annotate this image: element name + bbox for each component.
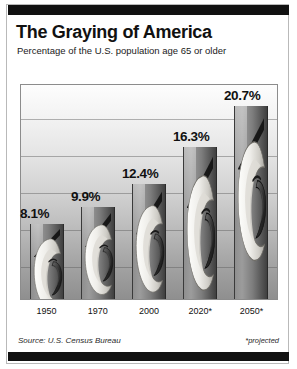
x-label-1950: 1950: [21, 306, 72, 316]
ear-hearing-aid-icon: [82, 222, 114, 296]
x-label-2050: 2050*: [226, 306, 277, 316]
bar-2000: [132, 184, 166, 299]
infographic-poster: The Graying of America Percentage of the…: [0, 0, 297, 369]
bar-2050: [234, 106, 268, 299]
top-rule: [8, 5, 289, 15]
source-note: Source: U.S. Census Bureau: [18, 336, 121, 345]
bar-1950: [30, 224, 64, 299]
x-label-2020: 2020*: [175, 306, 226, 316]
bottom-rule: [8, 352, 289, 361]
x-label-2000: 2000: [123, 306, 174, 316]
value-label-1970: 9.9%: [71, 189, 100, 204]
value-label-1950: 8.1%: [20, 206, 49, 221]
projected-note: *projected: [245, 336, 279, 345]
ear-hearing-aid-icon: [133, 202, 165, 294]
ear-hearing-aid-icon: [184, 171, 216, 293]
bar-2020: [183, 147, 217, 299]
chart-plot-area: [20, 84, 278, 300]
page-subtitle: Percentage of the U.S. population age 65…: [17, 45, 227, 57]
bar-1970: [81, 207, 115, 299]
ear-hearing-aid-icon: [31, 236, 63, 300]
ear-hearing-aid-icon: [235, 137, 267, 263]
x-label-1970: 1970: [72, 306, 123, 316]
value-label-2020: 16.3%: [173, 129, 209, 144]
value-label-2050: 20.7%: [224, 88, 260, 103]
value-label-2000: 12.4%: [122, 166, 158, 181]
page-title: The Graying of America: [16, 22, 266, 42]
